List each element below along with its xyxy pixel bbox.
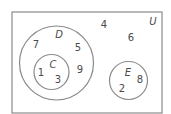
element-6: 6: [128, 32, 134, 43]
set-d-label: D: [55, 29, 63, 40]
element-9: 9: [77, 64, 83, 75]
venn-diagram: U D C E 7 5 9 1 3 4 6 8 2: [0, 0, 171, 114]
set-c-label: C: [50, 59, 57, 70]
element-1: 1: [38, 67, 44, 78]
element-5: 5: [75, 42, 81, 53]
universal-set-rectangle: [12, 12, 162, 113]
element-7: 7: [33, 39, 39, 50]
element-2: 2: [119, 83, 125, 94]
set-e-label: E: [125, 67, 132, 78]
element-4: 4: [101, 19, 107, 30]
universal-set-label: U: [149, 16, 157, 27]
element-8: 8: [137, 74, 143, 85]
element-3: 3: [55, 74, 61, 85]
